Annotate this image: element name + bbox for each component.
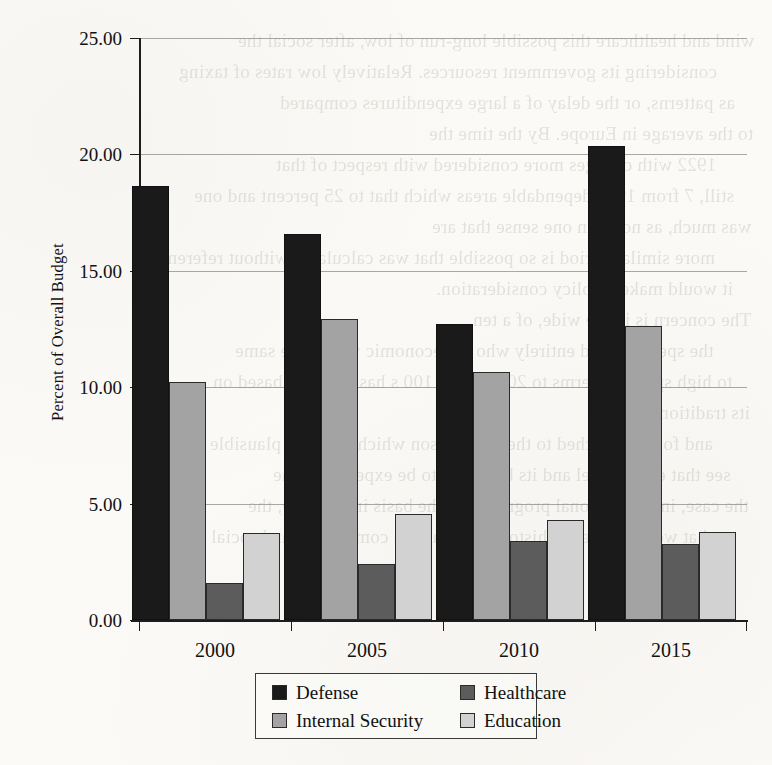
- legend-item-label: Healthcare: [484, 683, 566, 702]
- bar-education-2010: [547, 520, 584, 620]
- bar-healthcare-2005: [358, 564, 395, 620]
- bar-healthcare-2010: [510, 541, 547, 620]
- bar-defense-2000: [132, 186, 169, 620]
- y-tick-label: 20.00: [19, 145, 122, 164]
- legend-item-healthcare: Healthcare: [460, 678, 620, 706]
- x-tick-mark-2015: [595, 620, 596, 631]
- y-tick-label: 25.00: [19, 29, 122, 48]
- legend-item-label: Internal Security: [296, 711, 423, 730]
- gridline-y-25.00: [139, 38, 747, 39]
- bar-education-2005: [395, 514, 432, 620]
- scanned-page: wind and healthcare this possible long-r…: [0, 0, 772, 765]
- legend-swatch-icon: [460, 713, 475, 728]
- y-tick-label: 0.00: [19, 611, 122, 630]
- legend-item-label: Education: [484, 711, 561, 730]
- bar-internal-security-2000: [169, 382, 206, 620]
- legend-item-defense: Defense: [272, 678, 454, 706]
- y-tick-mark-20.00: [130, 154, 140, 155]
- legend-item-internal-security: Internal Security: [272, 706, 454, 734]
- y-tick-mark-25.00: [130, 38, 140, 39]
- x-tick-label: 2005: [291, 640, 443, 660]
- bar-healthcare-2015: [662, 544, 699, 620]
- x-tick-mark-2005: [291, 620, 292, 631]
- x-tick-mark-2000: [139, 620, 140, 631]
- x-tick-mark-2010: [443, 620, 444, 631]
- bar-education-2000: [243, 533, 280, 620]
- legend-item-education: Education: [460, 706, 620, 734]
- legend-swatch-icon: [272, 713, 287, 728]
- x-tick-label: 2010: [443, 640, 595, 660]
- gridline-y-20.00: [139, 154, 747, 155]
- y-tick-label: 10.00: [19, 378, 122, 397]
- x-tick-label: 2000: [139, 640, 291, 660]
- legend-item-label: Defense: [296, 683, 358, 702]
- bar-healthcare-2000: [206, 583, 243, 620]
- gridline-y-15.00: [139, 271, 747, 272]
- x-tick-mark-end: [746, 620, 747, 631]
- x-axis-line: [131, 620, 748, 622]
- bar-internal-security-2015: [625, 326, 662, 620]
- legend-swatch-icon: [460, 685, 475, 700]
- bar-defense-2010: [436, 324, 473, 620]
- x-tick-label: 2015: [595, 640, 747, 660]
- bar-defense-2005: [284, 234, 321, 620]
- bar-internal-security-2005: [321, 319, 358, 620]
- bar-education-2015: [699, 532, 736, 620]
- chart-legend: DefenseHealthcareInternal SecurityEducat…: [255, 673, 537, 739]
- y-tick-label: 5.00: [19, 495, 122, 514]
- bar-internal-security-2010: [473, 372, 510, 620]
- legend-swatch-icon: [272, 685, 287, 700]
- bar-chart: Percent of Overall Budget DefenseHealthc…: [0, 0, 772, 765]
- y-tick-label: 15.00: [19, 262, 122, 281]
- bar-defense-2015: [588, 146, 625, 620]
